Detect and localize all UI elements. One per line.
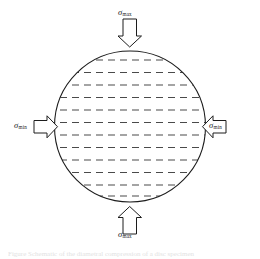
sigma-subscript-left: min <box>18 124 27 130</box>
arrow-left-sigma-min <box>34 116 58 138</box>
label-sigma-max-top: σmax <box>118 8 132 17</box>
sigma-subscript-top: max <box>122 11 132 17</box>
label-sigma-min-left: σmin <box>14 121 27 130</box>
sigma-subscript-bottom: max <box>122 233 132 239</box>
label-sigma-min-right: σmin <box>209 121 222 130</box>
disc-outline <box>55 51 206 202</box>
arrow-top-sigma-max <box>118 19 142 47</box>
label-sigma-max-bottom: σmax <box>118 230 132 239</box>
stress-diagram-figure: σmax σmax σmin σmin Figure Schematic of … <box>0 0 260 259</box>
sigma-subscript-right: min <box>213 124 222 130</box>
figure-caption: Figure Schematic of the diametral compre… <box>8 250 252 259</box>
